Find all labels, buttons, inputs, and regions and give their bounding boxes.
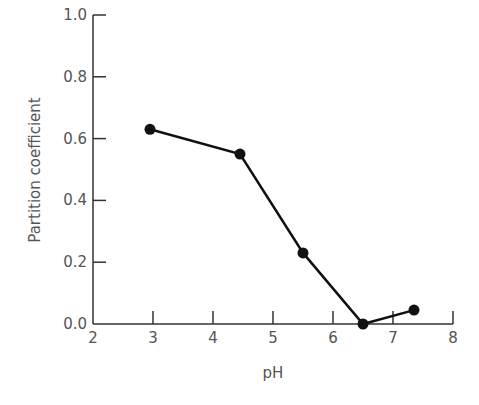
axes bbox=[93, 15, 453, 324]
data-point-marker bbox=[409, 305, 420, 316]
y-axis-label: Partition coefficient bbox=[26, 97, 44, 243]
ticks: 0.00.20.40.60.81.02345678 bbox=[63, 6, 458, 347]
y-tick-label: 0.6 bbox=[63, 130, 87, 148]
data-series bbox=[145, 124, 420, 330]
x-tick-label: 4 bbox=[208, 329, 218, 347]
y-tick-label: 1.0 bbox=[63, 6, 87, 24]
series-line bbox=[150, 129, 414, 324]
x-axis-label: pH bbox=[263, 364, 284, 382]
data-point-marker bbox=[235, 149, 246, 160]
x-tick-label: 5 bbox=[268, 329, 278, 347]
y-tick-label: 0.8 bbox=[63, 68, 87, 86]
data-point-marker bbox=[298, 247, 309, 258]
line-chart: 0.00.20.40.60.81.02345678 pH Partition c… bbox=[0, 0, 479, 405]
x-tick-label: 3 bbox=[148, 329, 158, 347]
y-tick-label: 0.0 bbox=[63, 315, 87, 333]
data-point-marker bbox=[358, 319, 369, 330]
x-tick-label: 6 bbox=[328, 329, 338, 347]
x-tick-label: 7 bbox=[388, 329, 398, 347]
y-tick-label: 0.2 bbox=[63, 253, 87, 271]
y-tick-label: 0.4 bbox=[63, 191, 87, 209]
data-point-marker bbox=[145, 124, 156, 135]
x-tick-label: 8 bbox=[448, 329, 458, 347]
x-tick-label: 2 bbox=[88, 329, 98, 347]
